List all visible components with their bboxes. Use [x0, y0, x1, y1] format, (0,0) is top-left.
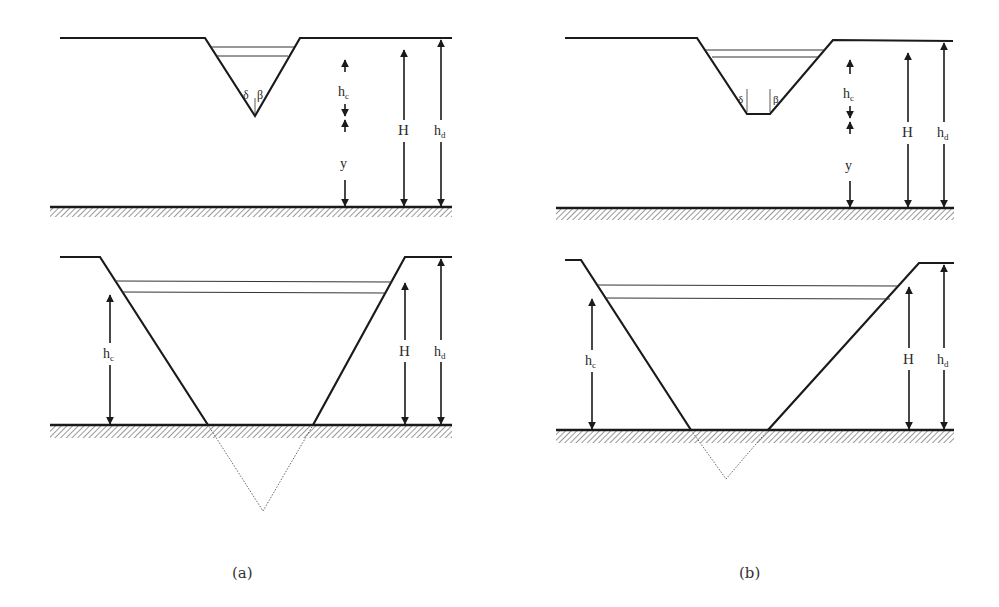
label-hc: hc	[585, 353, 596, 370]
crest-profile	[60, 38, 452, 116]
water-surface-lower	[606, 298, 890, 299]
bed-hatch	[556, 208, 954, 220]
panel-a-top: δ β hc y H hd	[50, 38, 452, 217]
label-hd: hd	[434, 123, 446, 140]
label-y: y	[845, 158, 852, 173]
label-hd: hd	[937, 125, 949, 142]
label-H: H	[399, 343, 410, 359]
water-surface-upper	[115, 281, 392, 282]
caption-b: (b)	[739, 564, 760, 582]
label-H: H	[903, 351, 914, 367]
label-hc: hc	[338, 84, 349, 101]
bed-hatch	[50, 425, 452, 438]
water-surface-upper	[598, 285, 898, 286]
label-H: H	[398, 122, 409, 138]
label-hc: hc	[103, 346, 114, 363]
label-hc: hc	[843, 86, 854, 103]
breach-diagram: δ β hc y H hd hc H	[0, 0, 999, 607]
water-surface-lower	[122, 292, 385, 293]
label-hd: hd	[937, 352, 949, 369]
breach-profile	[60, 257, 208, 425]
label-hd: hd	[434, 344, 446, 361]
caption-a: (a)	[232, 564, 253, 582]
label-H: H	[902, 124, 913, 140]
bed-hatch	[50, 207, 452, 217]
bed-hatch	[556, 430, 954, 443]
panel-b-bottom: hc H hd	[556, 260, 954, 479]
angle-label-beta: β	[257, 88, 263, 102]
panel-b-top: δ β hc y H hd	[556, 38, 954, 220]
panel-a-bottom: hc H hd	[50, 257, 452, 511]
angle-label-delta: δ	[243, 88, 249, 102]
angle-label-delta: δ	[738, 93, 743, 105]
label-y: y	[340, 156, 347, 171]
crest-profile	[565, 38, 953, 114]
angle-label-beta: β	[773, 93, 779, 105]
